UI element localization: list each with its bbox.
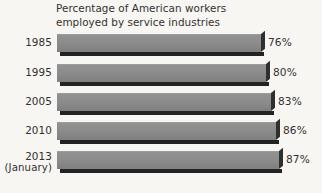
bar-face [57, 34, 261, 52]
category-label-line-1: 1995 [0, 66, 52, 78]
chart-row: 1985 76% [0, 30, 322, 60]
chart-title-line-2: employed by service industries [56, 15, 306, 29]
value-label-2005: 83% [278, 95, 302, 107]
value-label-1985: 76% [268, 36, 292, 48]
bar-shadow [60, 52, 264, 56]
bar-face [57, 64, 266, 82]
bar-face [57, 122, 276, 140]
bar-end-cap [279, 148, 283, 169]
category-label-2010: 2010 [0, 124, 52, 136]
bar-1985 [57, 34, 261, 56]
bar-2010 [57, 122, 276, 144]
bar-shadow [60, 111, 274, 115]
bar-2013 [57, 151, 279, 173]
chart-row: 2010 86% [0, 118, 322, 148]
chart-title-line-1: Percentage of American workers [56, 1, 306, 15]
bar-chart: Percentage of American workers employed … [0, 0, 322, 193]
chart-plot-area: 1985 76% 1995 80% 2005 [0, 30, 322, 193]
value-label-1995: 80% [273, 66, 297, 78]
bar-shadow [60, 169, 282, 173]
bar-shadow [60, 82, 269, 86]
category-label-line-1: 2013 [0, 150, 52, 162]
bar-1995 [57, 64, 266, 86]
bar-end-cap [276, 119, 280, 140]
bar-end-cap [271, 90, 275, 111]
category-label-1985: 1985 [0, 36, 52, 48]
category-label-2013: 2013 (January) [0, 150, 52, 174]
category-label-1995: 1995 [0, 66, 52, 78]
bar-2005 [57, 93, 271, 115]
value-label-2013: 87% [286, 153, 310, 165]
category-label-line-2: (January) [0, 162, 52, 174]
category-label-line-1: 1985 [0, 36, 52, 48]
category-label-line-1: 2010 [0, 124, 52, 136]
bar-shadow [60, 140, 279, 144]
bar-face [57, 151, 279, 169]
category-label-2005: 2005 [0, 95, 52, 107]
bar-end-cap [261, 31, 265, 52]
bar-end-cap [266, 61, 270, 82]
bar-face [57, 93, 271, 111]
category-label-line-1: 2005 [0, 95, 52, 107]
chart-row: 2013 (January) 87% [0, 147, 322, 187]
chart-row: 2005 83% [0, 89, 322, 119]
chart-row: 1995 80% [0, 60, 322, 90]
chart-title: Percentage of American workers employed … [56, 1, 306, 29]
value-label-2010: 86% [283, 124, 307, 136]
